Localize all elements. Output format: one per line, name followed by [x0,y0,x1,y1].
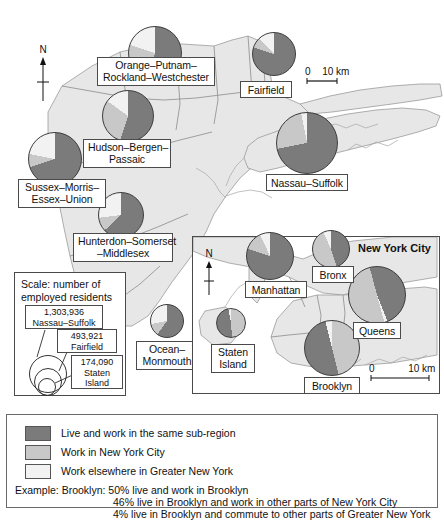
label-queens: Queens [353,322,401,339]
legend-example-text: 46% live in Brooklyn and work in other p… [113,496,397,508]
label-line2: Essex–Union [32,193,93,205]
label-sussex-morris-essex-union: Sussex–Morris– Essex–Union [18,179,106,208]
pie-brooklyn [304,320,360,376]
label-line1: Fairfield [248,84,284,96]
inset-title-text: New York City [358,242,431,254]
label-line1: Brooklyn [312,380,352,392]
scale-callout-staten-island: 174,090 Staten Island [71,355,123,389]
north-label-inset: N [203,248,215,259]
north-arrow-icon [36,55,50,103]
legend-label-work-in-nyc: Work in New York City [61,446,165,459]
label-line2: Passaic [109,153,145,165]
scale-callout-nassau-suffolk: 1,303,936 Nassau–Suffolk [25,305,103,329]
scale-value: 1,303,936 [44,307,84,317]
label-line1: Queens [359,325,395,337]
north-arrow-main: N [36,44,50,105]
legend-swatch-work-in-nyc [25,445,51,460]
legend-label-text: Work elsewhere in Greater New York [61,465,233,477]
scale-name: Nassau–Suffolk [33,318,96,328]
scale-length-main: 10 km [322,66,349,77]
label-line1: Staten [218,346,248,358]
scale-legend-title-line2: employed residents [21,291,112,303]
scale-zero-main: 0 [305,66,311,77]
pie-manhattan [246,232,294,280]
pie-queens [348,266,406,324]
label-fairfield: Fairfield [240,81,292,98]
legend-example-text: Example: Brooklyn: 50% live and work in … [15,484,248,496]
label-line1: Hudson–Bergen– [88,141,168,153]
label-line1: Sussex–Morris– [25,181,99,193]
legend-swatch-live-and-work-same-subregion [25,426,51,441]
legend-label-live-and-work-same-subregion: Live and work in the same sub-region [61,427,236,440]
label-line1: Orange–Putnam– [115,59,197,71]
label-line2: Monmouth [143,355,192,367]
scale-bar-inset: 0 10 km [369,363,435,383]
label-line2: Island [219,358,246,370]
pie-ocean-monmouth [150,304,184,338]
pie-staten-island [216,308,246,338]
legend-example-line3: 4% live in Brooklyn and commute to other… [113,508,431,521]
label-line2: Rockland–Westchester [103,71,209,83]
label-line1: Ocean– [149,343,185,355]
label-line1: Nassau–Suffolk [271,177,343,189]
label-hudson-bergen-passaic: Hudson–Bergen– Passaic [83,139,171,168]
label-bronx: Bronx [312,266,354,283]
north-arrow-icon [203,259,215,297]
label-orange-putnam-rockland-westchester: Orange–Putnam– Rockland–Westchester [97,57,215,86]
scale-value: 174,090 [81,357,114,367]
scale-bar-line-inset [369,375,433,383]
label-line1: Hunterdon–Somerset [78,235,176,247]
scale-value: 493,921 [71,331,104,341]
legend-swatch-work-elsewhere [25,464,51,479]
scale-length-inset: 10 km [408,363,435,374]
label-line2: –Middlesex [97,247,149,259]
scale-bar-main: 0 10 km [305,66,363,86]
label-staten-island: Staten Island [211,344,255,373]
pie-fairfield [252,32,296,76]
label-hunterdon-somerset-middlesex: Hunterdon–Somerset –Middlesex [73,233,173,262]
legend-label-work-elsewhere: Work elsewhere in Greater New York [61,465,233,478]
label-manhattan: Manhattan [245,281,307,298]
scale-name: Fairfield [71,342,103,352]
scale-callout-fairfield: 493,921 Fairfield [57,329,117,353]
label-brooklyn: Brooklyn [304,377,360,394]
pie-bronx [312,230,350,268]
scale-legend-box: Scale: number of employed residents 1,30… [14,272,126,396]
scale-legend-title-line1: Scale: number of [21,278,100,290]
label-line1: Bronx [320,269,347,281]
scale-zero-inset: 0 [369,363,375,374]
legend-label-text: Work in New York City [61,446,165,458]
label-line1: Manhattan [252,284,301,296]
label-ocean-monmouth: Ocean– Monmouth [136,341,198,370]
label-nassau-suffolk: Nassau–Suffolk [266,174,348,191]
legend-example-text: 4% live in Brooklyn and commute to other… [113,508,431,520]
pie-hudson-bergen-passaic [102,90,154,142]
scale-bar-line-main [305,78,363,86]
scale-legend-title: Scale: number of employed residents [21,278,125,304]
inset-title-new-york-city: New York City [358,242,431,254]
pie-sussex-morris-essex-union [28,132,82,186]
north-label-main: N [36,44,50,55]
pie-nassau-suffolk [276,112,338,174]
north-arrow-inset: N [203,248,215,299]
scale-circle-staten-island [38,378,56,396]
scale-name-line1: Staten [84,368,110,378]
scale-name-line2: Island [85,378,109,388]
legend-box: Live and work in the same sub-region Wor… [6,414,438,508]
legend-label-text: Live and work in the same sub-region [61,427,236,439]
